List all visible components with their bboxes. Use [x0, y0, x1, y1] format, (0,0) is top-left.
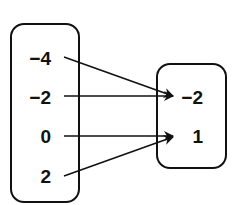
range-value-neg2: −2 [181, 87, 203, 108]
range-value-1: 1 [192, 126, 203, 147]
domain-value-0: 0 [40, 126, 51, 147]
domain-value-2: 2 [40, 166, 51, 187]
mapping-diagram: −4 −2 0 2 −2 1 [0, 0, 236, 205]
domain-value-neg4: −4 [29, 48, 51, 69]
range-box [157, 64, 226, 168]
domain-value-neg2: −2 [29, 87, 51, 108]
